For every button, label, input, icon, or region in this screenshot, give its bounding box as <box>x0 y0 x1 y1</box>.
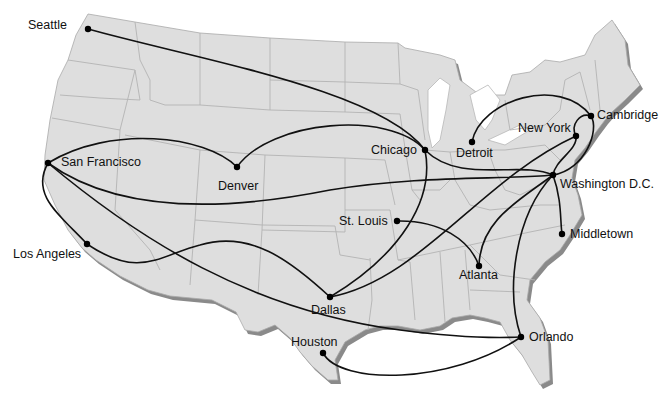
city-label-new-york: New York <box>518 122 571 135</box>
city-label-los-angeles: Los Angeles <box>13 248 81 261</box>
city-dot-middletown <box>559 231 565 237</box>
city-label-dallas: Dallas <box>311 304 346 317</box>
city-dot-seattle <box>85 26 91 32</box>
city-dot-los-angeles <box>84 241 90 247</box>
city-label-chicago: Chicago <box>371 144 417 157</box>
city-label-middletown: Middletown <box>570 228 633 241</box>
city-dot-denver <box>234 164 240 170</box>
city-dot-dallas <box>327 294 333 300</box>
city-label-detroit: Detroit <box>456 147 493 160</box>
city-dot-cambridge <box>588 113 594 119</box>
city-label-houston: Houston <box>291 336 338 349</box>
city-dot-detroit <box>469 139 475 145</box>
city-dot-new-york <box>573 133 579 139</box>
city-label-san-francisco: San Francisco <box>61 156 141 169</box>
city-dot-st-louis <box>394 218 400 224</box>
city-dot-orlando <box>518 334 524 340</box>
city-label-st-louis: St. Louis <box>339 215 388 228</box>
city-label-atlanta: Atlanta <box>459 269 498 282</box>
city-label-denver: Denver <box>218 180 258 193</box>
city-dot-chicago <box>422 147 428 153</box>
city-dot-houston <box>320 350 326 356</box>
city-label-seattle: Seattle <box>28 19 67 32</box>
city-dot-san-francisco <box>45 160 51 166</box>
city-label-orlando: Orlando <box>529 331 573 344</box>
city-dot-washington-dc <box>550 172 556 178</box>
city-label-washington-dc: Washington D.C. <box>560 178 654 191</box>
city-label-cambridge: Cambridge <box>597 109 658 122</box>
